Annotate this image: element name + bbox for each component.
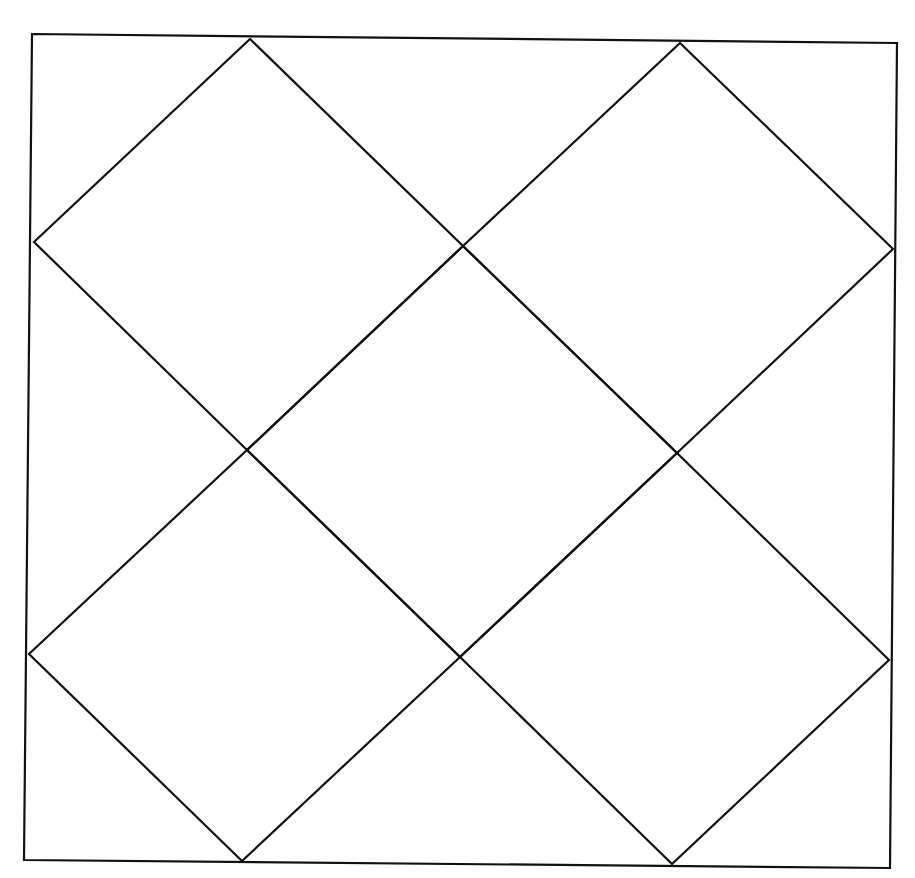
- diamond-lattice-diagram: [0, 0, 915, 878]
- bottom-right-diamond: [460, 453, 889, 864]
- center-diamond: [247, 246, 677, 657]
- bottom-left-diamond: [29, 450, 460, 861]
- top-left-diamond: [34, 39, 463, 450]
- outer-frame: [24, 34, 897, 868]
- top-right-diamond: [463, 43, 893, 453]
- diamond-group: [29, 39, 893, 864]
